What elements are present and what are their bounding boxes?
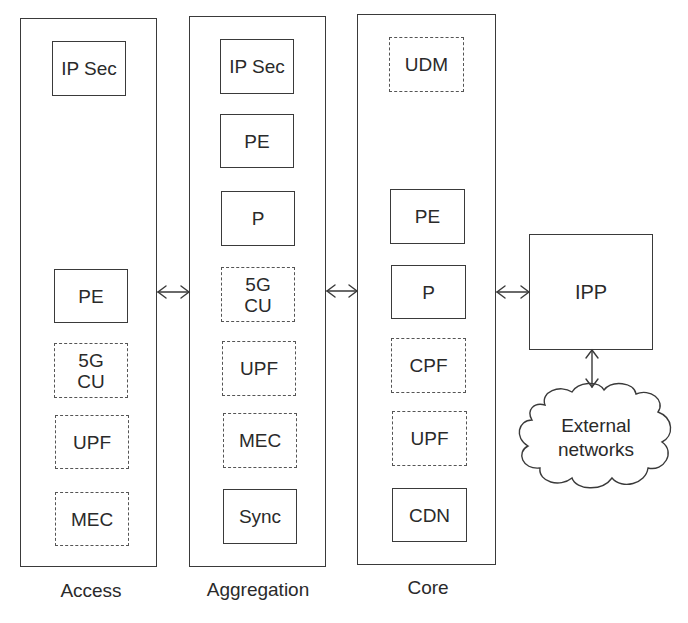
aggregation-mec-node: MEC <box>223 413 297 468</box>
node-label: PE <box>415 206 440 227</box>
node-label: UDM <box>405 54 448 75</box>
double-arrow-icon <box>158 286 189 298</box>
aggregation-label: Aggregation <box>178 579 338 601</box>
access-mec-node: MEC <box>55 492 129 546</box>
access-label: Access <box>11 580 171 602</box>
node-label: MEC <box>71 509 113 530</box>
double-arrow-icon <box>497 286 529 298</box>
node-label: MEC <box>239 430 281 451</box>
access-ipsec-node: IP Sec <box>52 41 126 96</box>
core-p-node: P <box>391 265 466 319</box>
aggregation-sync-node: Sync <box>223 489 297 544</box>
node-label: P <box>252 208 265 229</box>
node-label: UPF <box>240 358 278 379</box>
access-upf-node: UPF <box>55 415 129 469</box>
access-5gcu-node: 5G CU <box>54 343 128 398</box>
core-cpf-node: CPF <box>391 338 466 393</box>
node-label: IP Sec <box>61 58 117 79</box>
node-label: IP Sec <box>229 56 285 77</box>
ipp-node: IPP <box>529 234 653 350</box>
core-pe-node: PE <box>390 189 465 244</box>
node-label: CPF <box>410 355 448 376</box>
aggregation-upf-node: UPF <box>222 341 296 396</box>
aggregation-5gcu-node: 5G CU <box>221 267 295 322</box>
core-cdn-node: CDN <box>392 488 467 542</box>
core-upf-node: UPF <box>392 411 467 466</box>
aggregation-p-node: P <box>221 191 295 246</box>
node-label: IPP <box>575 281 607 304</box>
access-pe-node: PE <box>54 269 128 323</box>
node-label: PE <box>78 286 103 307</box>
node-label: P <box>422 282 435 303</box>
node-label: 5G CU <box>77 350 104 392</box>
core-label: Core <box>348 577 508 599</box>
node-label: UPF <box>411 428 449 449</box>
node-label: Sync <box>239 506 281 527</box>
aggregation-ipsec-node: IP Sec <box>220 39 294 94</box>
core-udm-node: UDM <box>389 37 464 92</box>
double-arrow-icon <box>327 285 357 297</box>
node-label: PE <box>244 131 269 152</box>
cloud-label-line1: External <box>536 414 656 438</box>
node-label: UPF <box>73 432 111 453</box>
cloud-label-line2: networks <box>536 438 656 462</box>
external-networks-cloud: External networks <box>536 414 656 462</box>
aggregation-pe-node: PE <box>220 114 294 168</box>
node-label: 5G CU <box>244 274 271 316</box>
node-label: CDN <box>409 505 450 526</box>
double-arrow-icon <box>586 350 598 387</box>
